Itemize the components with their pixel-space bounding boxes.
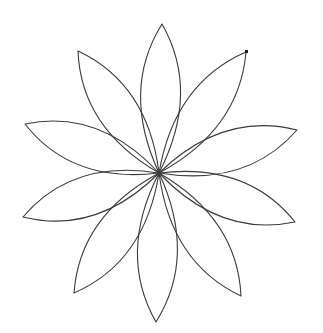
petal-5 [159,173,241,296]
turtle-cursor-icon [245,50,248,53]
petal-2 [159,52,246,173]
petal-4 [159,171,295,225]
flower-petals [23,24,297,322]
flower-drawing-canvas [0,0,323,333]
petal-8 [23,170,159,221]
petal-9 [25,121,159,175]
petal-1 [141,24,181,173]
petal-3 [159,126,297,176]
petal-6 [137,173,177,322]
petal-7 [74,173,159,293]
petal-10 [78,51,159,173]
